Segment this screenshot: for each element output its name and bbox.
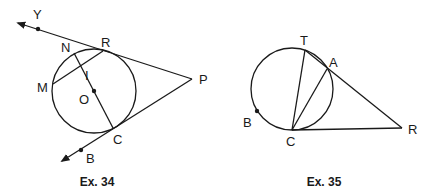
caption-ex-35: Ex. 35 xyxy=(307,175,342,189)
caption-ex-34: Ex. 34 xyxy=(80,175,115,189)
secant-rt xyxy=(305,50,402,128)
label-c: C xyxy=(113,132,122,147)
label-i: I xyxy=(85,68,89,83)
tangent-rc xyxy=(292,128,402,130)
label-b: B xyxy=(243,115,252,130)
circle-2 xyxy=(251,48,333,130)
label-m: M xyxy=(37,80,48,95)
point-o-dot xyxy=(92,89,96,93)
point-b-dot xyxy=(255,109,259,113)
point-b-dot xyxy=(79,148,83,152)
label-c: C xyxy=(286,134,295,149)
label-n: N xyxy=(61,40,70,55)
label-b: B xyxy=(86,151,95,166)
label-y: Y xyxy=(33,7,42,22)
label-a: A xyxy=(329,55,338,70)
label-t: T xyxy=(300,33,308,48)
tangent-line-py xyxy=(18,23,192,79)
figure-ex-35: T A B C R Ex. 35 xyxy=(243,33,417,189)
label-o: O xyxy=(79,92,89,107)
label-p: P xyxy=(199,72,208,87)
label-r: R xyxy=(408,122,417,137)
figure-ex-34: Y N R M I O P C B Ex. 34 xyxy=(18,7,208,189)
label-r: R xyxy=(101,35,110,50)
diagram-canvas: Y N R M I O P C B Ex. 34 T A B C R Ex. 3… xyxy=(0,0,433,189)
point-y-dot xyxy=(36,27,40,31)
chord-mr xyxy=(53,51,103,84)
